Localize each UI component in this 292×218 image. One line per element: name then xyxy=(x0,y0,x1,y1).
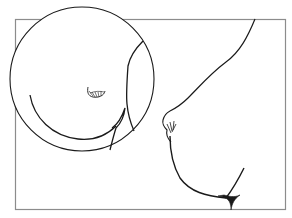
profile-lower-contour xyxy=(170,136,244,198)
inset-circle xyxy=(10,7,154,151)
profile-upper-contour xyxy=(170,19,255,111)
illustration-canvas: Medical line drawing: side profile with … xyxy=(0,0,292,218)
profile-nipple-detail xyxy=(167,121,176,133)
line-drawing xyxy=(0,0,292,218)
